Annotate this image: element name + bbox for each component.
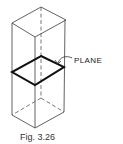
bottom-edge-front-right: [35, 112, 64, 128]
bottom-edge-back-left-hidden: [12, 98, 41, 115]
bottom-face: [12, 98, 64, 128]
prism-diagram: PLANE Fig. 3.26: [0, 0, 123, 144]
top-edge-front-left: [12, 23, 35, 37]
top-edge-front-right: [35, 20, 66, 37]
plane-label: PLANE: [74, 56, 102, 65]
bottom-edge-front-left: [12, 115, 35, 128]
top-face: [12, 7, 66, 37]
top-edge-back-right: [41, 7, 66, 20]
top-edge-back-left: [12, 7, 41, 23]
figure-caption: Fig. 3.26: [20, 132, 55, 142]
cutting-plane: [12, 56, 64, 85]
bottom-edge-back-right-hidden: [41, 98, 64, 112]
